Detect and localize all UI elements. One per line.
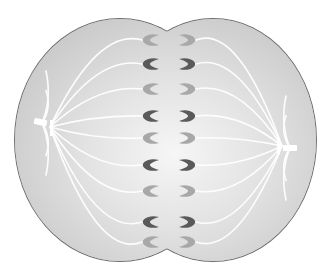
cell-membrane — [0, 0, 335, 279]
cell-illustration — [0, 0, 335, 279]
mitosis-diagram — [0, 0, 335, 279]
